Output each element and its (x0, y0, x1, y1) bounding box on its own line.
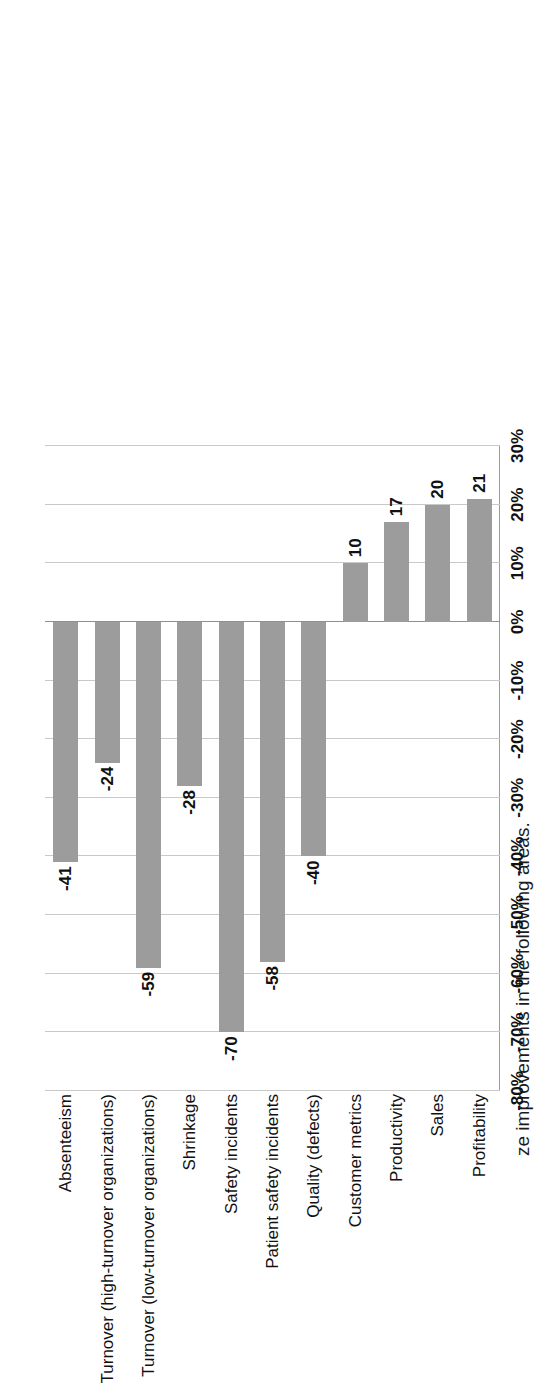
bar (95, 622, 120, 763)
category-label: Productivity (384, 1094, 409, 1182)
bar (136, 622, 161, 968)
category-label: Patient safety incidents (260, 1094, 285, 1269)
tick-label: 20% (508, 488, 528, 522)
bar-value-label: -41 (53, 866, 78, 896)
category-label: Absenteeism (53, 1094, 78, 1192)
tick-label: 0% (508, 610, 528, 635)
bar (177, 622, 202, 786)
tick-label: -70% (508, 1013, 528, 1053)
category-label: Sales (425, 1094, 450, 1137)
tick-label: -20% (508, 719, 528, 759)
value-axis-tick-labels: 30%20%10%0%-10%-20%-30%-40%-50%-60%-70%-… (508, 446, 532, 1091)
category-label: Customer metrics (343, 1094, 368, 1227)
category-label: Quality (defects) (301, 1094, 326, 1218)
bar (425, 505, 450, 622)
plot-area: -41-24-59-28-70-58-4010172021 (45, 446, 500, 1091)
bar-value-label: -24 (95, 767, 120, 797)
bar (53, 622, 78, 862)
category-label: Turnover (low-turnover organizations) (136, 1094, 161, 1377)
category-axis-line (499, 446, 500, 1091)
bar (343, 563, 368, 622)
bar-value-label: -59 (136, 972, 161, 1002)
category-label: Shrinkage (177, 1094, 202, 1171)
bar (467, 499, 492, 622)
tick-label: 30% (508, 429, 528, 463)
bar-value-label: -28 (177, 790, 202, 820)
category-label: Profitability (467, 1094, 492, 1177)
bar (384, 522, 409, 622)
gridline-neg70 (45, 1031, 500, 1032)
tick-label: -60% (508, 954, 528, 994)
category-label: Safety incidents (219, 1094, 244, 1214)
tick-label: -30% (508, 778, 528, 818)
bar-value-label: 20 (425, 480, 450, 499)
bar-value-label: -40 (301, 860, 326, 890)
gridline-30 (45, 445, 500, 446)
bar-value-label: -70 (219, 1036, 244, 1066)
tick-label: -10% (508, 661, 528, 701)
tick-label: -50% (508, 895, 528, 935)
bar-value-label: -58 (260, 966, 285, 996)
bar (301, 622, 326, 857)
bar-value-label: 17 (384, 497, 409, 516)
bar-value-label: 10 (343, 538, 368, 557)
tick-label: -80% (508, 1071, 528, 1111)
category-label: Turnover (high-turnover organizations) (95, 1094, 120, 1383)
category-axis-labels: AbsenteeismTurnover (high-turnover organ… (45, 1094, 500, 1156)
tick-label: 10% (508, 546, 528, 580)
bar (260, 622, 285, 962)
tick-label: -40% (508, 837, 528, 877)
bar (219, 622, 244, 1032)
bar-value-label: 21 (467, 474, 492, 493)
gridline-neg80 (45, 1090, 500, 1091)
